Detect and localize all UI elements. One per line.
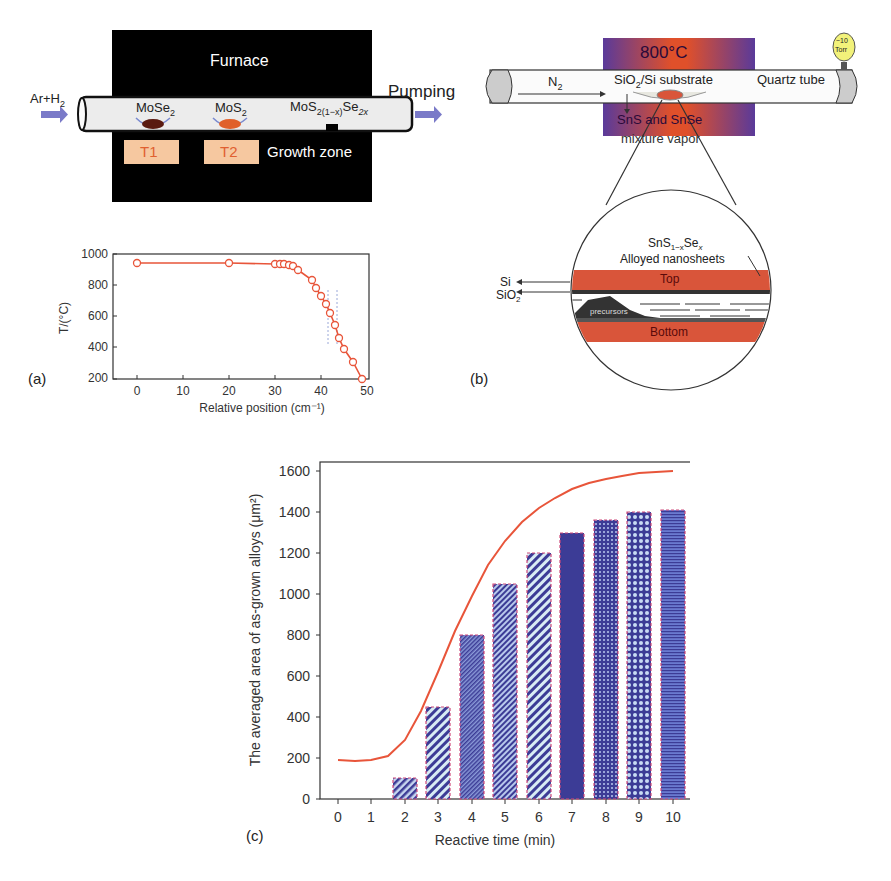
alloy-formula: SnS1−xSex — [648, 236, 703, 252]
gauge-label-1: ~10 — [836, 37, 848, 44]
bars — [393, 510, 685, 799]
gas-inlet-label: Ar+H2 — [30, 91, 65, 109]
bar-t2 — [393, 778, 417, 799]
svg-text:1600: 1600 — [279, 463, 310, 479]
panel-b-label: (b) — [470, 370, 488, 387]
bar-t7 — [560, 533, 584, 799]
substrate-label: SiO2/Si substrate — [614, 72, 713, 90]
x-tick-labels: 01020304050 — [134, 384, 374, 398]
svg-text:400: 400 — [88, 340, 108, 354]
panel-c: 02004006008001000120014001600 0123456789… — [230, 430, 690, 850]
substrate-spot — [657, 90, 683, 100]
y-tick-labels: 02004006008001000120014001600 — [279, 463, 310, 807]
svg-text:0: 0 — [334, 809, 342, 825]
panel-a-label: (a) — [28, 370, 46, 387]
vapor-label-1: SnS and SnSe — [617, 112, 702, 127]
gauge-label-2: Torr — [835, 46, 847, 53]
source2-label: MoS2 — [215, 100, 247, 118]
x-ticks — [137, 375, 321, 379]
y-tick-labels: 1000 800 600 400 200 — [81, 247, 108, 385]
svg-text:2: 2 — [401, 809, 409, 825]
svg-text:1: 1 — [367, 809, 375, 825]
furnace-schematic — [0, 0, 470, 240]
area-vs-time-chart: 02004006008001000120014001600 0123456789… — [230, 430, 690, 850]
alloy-description: Alloyed nanosheets — [620, 252, 725, 266]
panel-c-label: (c) — [246, 827, 264, 844]
svg-text:600: 600 — [88, 309, 108, 323]
si-label: Si — [500, 275, 511, 289]
mos2-source — [219, 119, 241, 129]
bar-t5 — [493, 584, 517, 799]
svg-text:6: 6 — [535, 809, 543, 825]
mose2-source — [142, 119, 164, 129]
svg-text:1000: 1000 — [81, 247, 108, 261]
svg-text:400: 400 — [287, 709, 311, 725]
quartz-tube-label: Quartz tube — [757, 72, 825, 87]
y-axis-label: T/(°C) — [57, 302, 71, 334]
svg-text:0: 0 — [134, 384, 141, 398]
x-ticks — [338, 799, 673, 804]
svg-text:10: 10 — [665, 809, 681, 825]
furnace-label: Furnace — [210, 52, 269, 70]
svg-text:50: 50 — [360, 384, 374, 398]
top-plate-label: Top — [660, 272, 679, 286]
svg-text:9: 9 — [635, 809, 643, 825]
svg-text:7: 7 — [568, 809, 576, 825]
svg-text:200: 200 — [88, 371, 108, 385]
svg-text:800: 800 — [88, 278, 108, 292]
pumping-label: Pumping — [388, 82, 455, 102]
svg-text:1400: 1400 — [279, 504, 310, 520]
svg-text:40: 40 — [314, 384, 328, 398]
bar-t6 — [527, 553, 551, 799]
carrier-gas-label: N2 — [548, 74, 562, 92]
temperature-profile-chart: 1000 800 600 400 200 01020304050 Relativ… — [0, 240, 400, 415]
svg-text:10: 10 — [176, 384, 190, 398]
product-label: MoS2(1−x)Se2x — [290, 99, 368, 117]
cvd-schematic — [470, 0, 891, 420]
bar-t8 — [594, 520, 618, 799]
bar-t3 — [426, 707, 450, 799]
x-axis-label: Relative position (cm⁻¹) — [199, 401, 324, 415]
svg-text:3: 3 — [434, 809, 442, 825]
precursor-label: precursors — [590, 307, 628, 316]
bottom-plate-label: Bottom — [650, 325, 688, 339]
furnace-temperature: 800°C — [640, 43, 687, 63]
data-markers — [134, 260, 366, 383]
bar-t10 — [661, 510, 685, 799]
svg-text:800: 800 — [287, 627, 311, 643]
growth-zone-label: Growth zone — [267, 143, 352, 160]
svg-text:600: 600 — [287, 668, 311, 684]
bar-t9 — [627, 512, 651, 799]
pumping-arrow — [415, 106, 442, 123]
svg-text:1200: 1200 — [279, 545, 310, 561]
svg-text:1000: 1000 — [279, 586, 310, 602]
svg-text:0: 0 — [302, 791, 310, 807]
bar-t4 — [460, 635, 484, 799]
svg-text:4: 4 — [468, 809, 476, 825]
vapor-label-2: mixture vapor — [621, 131, 700, 146]
svg-text:20: 20 — [222, 384, 236, 398]
temperature-curve — [137, 263, 362, 379]
svg-text:5: 5 — [501, 809, 509, 825]
sio2-label: SiO2 — [496, 288, 520, 304]
x-tick-labels: 012345678910 — [334, 809, 681, 825]
y-ticks — [316, 471, 320, 799]
svg-text:8: 8 — [602, 809, 610, 825]
zone-t2-label: T2 — [220, 143, 238, 160]
y-axis-label: The averaged area of as-grown alloys (μm… — [247, 494, 263, 767]
tube-end-left — [486, 70, 512, 103]
panel-b: 800°C N2 SiO2/Si substrate Quartz tube S… — [470, 0, 891, 420]
svg-text:200: 200 — [287, 750, 311, 766]
svg-text:30: 30 — [268, 384, 282, 398]
source1-label: MoSe2 — [136, 100, 175, 118]
growth-substrate — [326, 124, 338, 131]
zone-t1-label: T1 — [140, 143, 158, 160]
x-axis-label: Reactive time (min) — [435, 832, 556, 848]
panel-a: Furnace Ar+H2 Pumping MoSe2 MoS2 MoS2(1−… — [0, 0, 470, 410]
